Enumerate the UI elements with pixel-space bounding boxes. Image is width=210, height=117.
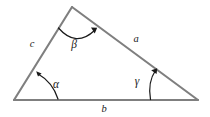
- angle-label-gamma: γ: [135, 75, 140, 88]
- side-label-c: c: [30, 38, 35, 49]
- triangle-diagram-canvas: a b c α β γ: [0, 0, 210, 117]
- side-label-a: a: [133, 33, 138, 44]
- side-c-line: [14, 7, 72, 100]
- triangle-figure: a b c α β γ: [0, 0, 210, 117]
- gamma-angle-arc: [150, 71, 156, 100]
- angle-label-beta: β: [70, 38, 77, 51]
- angle-label-alpha: α: [53, 78, 60, 90]
- side-label-b: b: [101, 103, 106, 114]
